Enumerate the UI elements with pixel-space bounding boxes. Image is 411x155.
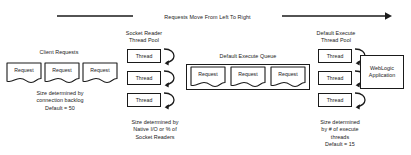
client-request-shape-1: Request bbox=[6, 62, 42, 84]
socket-reader-thread-2: Thread bbox=[127, 71, 161, 85]
queued-request-shape-1: Request bbox=[190, 66, 226, 88]
flow-direction-arrow: Requests Move From Left To Right bbox=[0, 8, 411, 24]
execute-thread-pool-caption: Size determined by # of execute threads … bbox=[300, 119, 380, 149]
execute-thread-recycle-arrow-3 bbox=[353, 90, 367, 110]
client-request-shape-2: Request bbox=[44, 62, 80, 84]
socket-reader-recycle-arrow-2 bbox=[162, 68, 176, 88]
socket-reader-pool-title: Socket Reader Thread Pool bbox=[113, 30, 175, 45]
queued-request-shape-3: Request bbox=[270, 66, 306, 88]
flow-direction-label: Requests Move From Left To Right bbox=[133, 14, 282, 21]
execute-thread-2: Thread bbox=[318, 71, 352, 85]
socket-reader-recycle-arrow-1 bbox=[162, 46, 176, 66]
socket-reader-thread-1: Thread bbox=[127, 49, 161, 63]
client-requests-title: Client Requests bbox=[14, 49, 104, 56]
socket-reader-pool-caption: Size determined by Native I/O or % of So… bbox=[110, 119, 200, 141]
socket-reader-recycle-arrow-3 bbox=[162, 90, 176, 110]
socket-reader-thread-3: Thread bbox=[127, 93, 161, 107]
weblogic-request-flow-diagram: Requests Move From Left To Right Client … bbox=[0, 0, 411, 155]
weblogic-application-box: WebLogic Application bbox=[360, 55, 404, 89]
client-request-shape-3: Request bbox=[82, 62, 118, 84]
execute-thread-3: Thread bbox=[318, 93, 352, 107]
queued-request-shape-2: Request bbox=[230, 66, 266, 88]
client-requests-caption: Size determined by connection backlog De… bbox=[14, 90, 106, 112]
execute-thread-pool-title: Default Execute Thread Pool bbox=[304, 30, 368, 45]
execute-thread-1: Thread bbox=[318, 49, 352, 63]
execute-queue-title: Default Execute Queue bbox=[193, 53, 303, 60]
